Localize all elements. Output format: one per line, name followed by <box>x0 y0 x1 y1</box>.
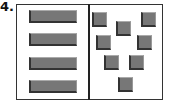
item-number-label: 4. <box>0 0 14 13</box>
horizontal-bar-1 <box>29 10 77 23</box>
panel-divider <box>88 4 90 100</box>
horizontal-bar-4 <box>29 80 77 93</box>
square-3 <box>116 21 131 36</box>
square-6 <box>104 55 119 70</box>
square-7 <box>129 55 144 70</box>
square-5 <box>137 35 152 50</box>
square-2 <box>141 12 156 27</box>
horizontal-bar-2 <box>29 33 77 46</box>
square-8 <box>118 77 133 92</box>
square-1 <box>92 12 107 27</box>
horizontal-bar-3 <box>29 57 77 70</box>
square-4 <box>96 35 111 50</box>
